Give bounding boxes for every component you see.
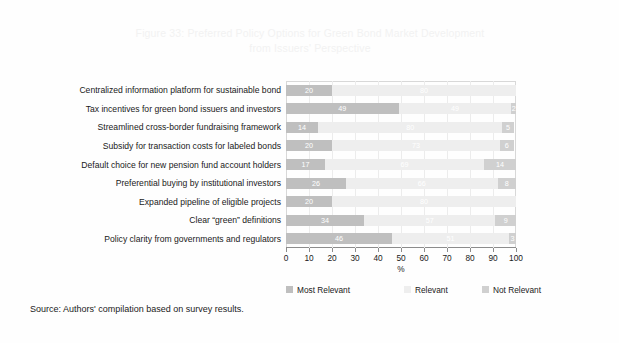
legend-label: Most Relevant [297, 284, 350, 296]
bar-segment[interactable]: 14 [286, 122, 318, 133]
x-tick-mark [447, 248, 448, 252]
bar-segment[interactable]: 26 [286, 178, 346, 189]
figure-container: Figure 33: Preferred Policy Options for … [0, 0, 619, 343]
bar-value-label: 57 [364, 216, 495, 225]
legend-swatch [404, 286, 411, 293]
bar-row[interactable]: 2080 [286, 196, 516, 207]
x-tick-mark [470, 248, 471, 252]
legend-swatch [286, 286, 293, 293]
bar-value-label: 8 [498, 179, 516, 188]
bar-value-label: 73 [332, 141, 500, 150]
x-tick-label: 100 [501, 253, 531, 263]
bar-segment[interactable]: 80 [318, 122, 502, 133]
bar-segment[interactable]: 49 [286, 103, 399, 114]
chart-legend: Most RelevantRelevantNot Relevant [286, 284, 546, 298]
bar-row[interactable]: 34579 [286, 215, 516, 226]
bar-segment[interactable]: 46 [286, 233, 392, 244]
bar-segment[interactable]: 2 [511, 103, 516, 114]
category-label: Default choice for new pension fund acco… [31, 160, 281, 170]
bar-segment[interactable]: 73 [332, 140, 500, 151]
bar-segment[interactable]: 51 [392, 233, 509, 244]
bar-value-label: 80 [332, 197, 516, 206]
x-tick-mark [493, 248, 494, 252]
bar-value-label: 26 [286, 179, 346, 188]
x-tick-mark [378, 248, 379, 252]
x-tick-mark [286, 248, 287, 252]
x-tick-mark [332, 248, 333, 252]
bar-value-label: 49 [286, 104, 399, 113]
category-label: Centralized information platform for sus… [31, 85, 281, 95]
bar-row[interactable]: 20736 [286, 140, 516, 151]
bar-segment[interactable]: 5 [502, 122, 514, 133]
bar-row[interactable]: 46513 [286, 233, 516, 244]
bar-segment[interactable]: 66 [346, 178, 498, 189]
bar-segment[interactable]: 34 [286, 215, 364, 226]
page-title: Figure 33: Preferred Policy Options for … [60, 26, 560, 56]
bar-row[interactable]: 176914 [286, 159, 516, 170]
bar-value-label: 69 [325, 160, 484, 169]
bar-value-label: 17 [286, 160, 325, 169]
bar-segment[interactable]: 20 [286, 196, 332, 207]
bar-value-label: 80 [332, 86, 516, 95]
category-label: Subsidy for transaction costs for labele… [31, 141, 281, 151]
plot-area: 2080494921480520736176914266682080345794… [286, 81, 516, 248]
bar-segment[interactable]: 9 [495, 215, 516, 226]
category-label: Expanded pipeline of eligible projects [31, 197, 281, 207]
category-label: Tax incentives for green bond issuers an… [31, 104, 281, 114]
x-tick-mark [516, 248, 517, 252]
bar-value-label: 2 [511, 104, 516, 113]
x-tick-mark [401, 248, 402, 252]
category-label: Preferential buying by institutional inv… [31, 178, 281, 188]
bar-segment[interactable]: 6 [500, 140, 514, 151]
legend-label: Relevant [415, 284, 448, 296]
bar-value-label: 9 [495, 216, 516, 225]
bar-value-label: 46 [286, 234, 392, 243]
bar-segment[interactable]: 3 [509, 233, 516, 244]
bar-segment[interactable]: 57 [364, 215, 495, 226]
source-note: Source: Authors' compilation based on su… [30, 304, 244, 314]
bar-row[interactable]: 49492 [286, 103, 516, 114]
x-axis-title: % [286, 264, 516, 274]
bar-value-label: 5 [502, 123, 514, 132]
bar-value-label: 20 [286, 141, 332, 150]
bar-value-label: 20 [286, 86, 332, 95]
bar-value-label: 51 [392, 234, 509, 243]
bar-segment[interactable]: 8 [498, 178, 516, 189]
bar-row[interactable]: 14805 [286, 122, 516, 133]
bar-segment[interactable]: 14 [484, 159, 516, 170]
legend-swatch [482, 286, 489, 293]
bar-segment[interactable]: 80 [332, 85, 516, 96]
bar-row[interactable]: 26668 [286, 178, 516, 189]
category-label: Clear “green” definitions [31, 215, 281, 225]
x-tick-mark [424, 248, 425, 252]
x-tick-mark [355, 248, 356, 252]
bar-segment[interactable]: 17 [286, 159, 325, 170]
bar-segment[interactable]: 20 [286, 140, 332, 151]
bar-value-label: 80 [318, 123, 502, 132]
bar-segment[interactable]: 20 [286, 85, 332, 96]
bar-value-label: 6 [500, 141, 514, 150]
bar-row[interactable]: 2080 [286, 85, 516, 96]
bar-value-label: 3 [509, 234, 516, 243]
bar-segment[interactable]: 49 [399, 103, 512, 114]
bar-segment[interactable]: 69 [325, 159, 484, 170]
bar-value-label: 14 [286, 123, 318, 132]
bar-value-label: 34 [286, 216, 364, 225]
category-label: Policy clarity from governments and regu… [31, 234, 281, 244]
bar-value-label: 49 [399, 104, 512, 113]
bar-segment[interactable]: 80 [332, 196, 516, 207]
x-tick-mark [309, 248, 310, 252]
bar-value-label: 20 [286, 197, 332, 206]
legend-label: Not Relevant [493, 284, 541, 296]
bar-value-label: 66 [346, 179, 498, 188]
bar-value-label: 14 [484, 160, 516, 169]
category-label: Streamlined cross-border fundraising fra… [31, 122, 281, 132]
